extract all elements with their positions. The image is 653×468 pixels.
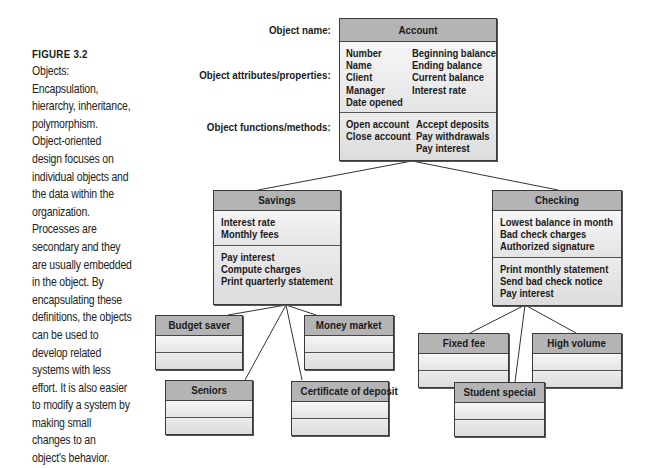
figure-description: Objects: Encapsulation, hierarchy, inher… [32, 63, 132, 468]
class-budget-saver: Budget saver [155, 315, 243, 370]
figure-caption: FIGURE 3.2 Objects: Encapsulation, hiera… [32, 48, 132, 468]
class-name: Budget saver [156, 316, 242, 336]
class-name: Seniors [166, 381, 252, 401]
class-certificate-of-deposit: Certificate of deposit [291, 381, 389, 436]
class-name: Checking [493, 191, 621, 211]
class-name: Account [340, 19, 496, 42]
methods-section: Print monthly statement Send bad check n… [493, 258, 621, 305]
class-name: High volume [533, 334, 621, 354]
attributes-section: Lowest balance in month Bad check charge… [493, 211, 621, 258]
class-name: Money market [305, 316, 393, 336]
class-savings: Savings Interest rate Monthly fees Pay i… [213, 190, 341, 305]
class-account: Account Number Name Client Manager Date … [339, 18, 497, 161]
methods-section: Pay interest Compute charges Print quart… [214, 246, 340, 304]
class-name: Savings [214, 191, 340, 211]
class-money-market: Money market [304, 315, 394, 370]
methods-section: Open account Close account Accept deposi… [340, 113, 496, 160]
class-high-volume: High volume [532, 333, 622, 388]
class-student-special: Student special [454, 382, 545, 437]
class-fixed-fee: Fixed fee [418, 333, 509, 388]
label-object-name: Object name: [269, 24, 331, 36]
class-name: Fixed fee [419, 334, 508, 354]
attributes-section: Interest rate Monthly fees [214, 211, 340, 246]
figure-label: FIGURE 3.2 [32, 48, 117, 60]
class-seniors: Seniors [165, 380, 253, 435]
label-object-attributes: Object attributes/properties: [200, 69, 331, 81]
class-name: Certificate of deposit [292, 382, 388, 402]
class-name: Student special [455, 383, 544, 403]
attributes-section: Number Name Client Manager Date opened B… [340, 42, 496, 113]
class-checking: Checking Lowest balance in month Bad che… [492, 190, 622, 306]
label-object-methods: Object functions/methods: [207, 121, 331, 133]
